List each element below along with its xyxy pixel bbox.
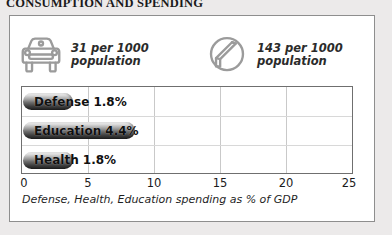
telephone-icon xyxy=(205,34,249,76)
x-tick-5: 5 xyxy=(84,176,91,190)
car-icon xyxy=(19,34,63,76)
page-title: CONSUMPTION AND SPENDING xyxy=(6,0,203,11)
x-axis: 0 5 10 15 20 25 xyxy=(21,175,353,191)
chart-plot-area: Defense 1.8% Education 4.4% Health 1.8% xyxy=(21,86,353,174)
x-tick-20: 20 xyxy=(279,176,294,190)
bar-row-health: Health 1.8% xyxy=(22,146,352,174)
x-tick-15: 15 xyxy=(213,176,228,190)
stat-value-cars: 31 per 1000 xyxy=(71,41,149,55)
stat-item-telephones: 143 per 1000 population xyxy=(205,30,343,80)
x-tick-0: 0 xyxy=(20,176,27,190)
stat-value-telephones: 143 per 1000 xyxy=(257,41,343,55)
bar-label-education: Education 4.4% xyxy=(34,124,139,138)
bar-label-defense: Defense 1.8% xyxy=(34,95,127,109)
stat-text-telephones: 143 per 1000 population xyxy=(257,42,343,68)
stat-item-cars: 31 per 1000 population xyxy=(19,30,205,80)
stat-unit-cars: population xyxy=(71,55,149,68)
bar-row-defense: Defense 1.8% xyxy=(22,87,352,116)
stat-text-cars: 31 per 1000 population xyxy=(71,42,149,68)
x-tick-25: 25 xyxy=(342,176,357,190)
bar-label-health: Health 1.8% xyxy=(34,153,116,167)
x-tick-10: 10 xyxy=(147,176,162,190)
infographic-card: 31 per 1000 population 143 per 1000 popu… xyxy=(9,15,375,222)
bar-row-education: Education 4.4% xyxy=(22,116,352,145)
stats-strip: 31 per 1000 population 143 per 1000 popu… xyxy=(10,30,374,80)
chart-caption: Defense, Health, Education spending as %… xyxy=(22,193,297,206)
stat-unit-telephones: population xyxy=(257,55,343,68)
bar-chart: Defense 1.8% Education 4.4% Health 1.8% … xyxy=(21,86,365,214)
